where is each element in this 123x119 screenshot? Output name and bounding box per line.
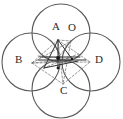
base-point-marker — [57, 67, 60, 70]
vertex-label-c: C — [60, 85, 67, 96]
vertex-label-a: A — [52, 21, 60, 32]
vertex-label-o: O — [68, 22, 76, 33]
geometry-figure: A O B D C — [0, 0, 123, 119]
vertex-label-b: B — [15, 54, 22, 65]
right-base-point-marker — [71, 58, 73, 60]
edge-c-d-dashed — [63, 62, 90, 84]
top-circle — [32, 4, 90, 62]
edge-a-to-base-left — [44, 40, 58, 68]
edge-a-o-dashed — [58, 40, 71, 41]
center-point-marker — [56, 56, 60, 60]
vertex-label-d: D — [95, 54, 103, 65]
